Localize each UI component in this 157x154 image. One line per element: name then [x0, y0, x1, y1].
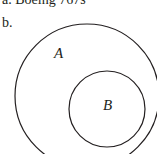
set-a-label: A [54, 45, 63, 62]
set-b-label: B [103, 97, 112, 114]
venn-diagram [0, 0, 157, 154]
